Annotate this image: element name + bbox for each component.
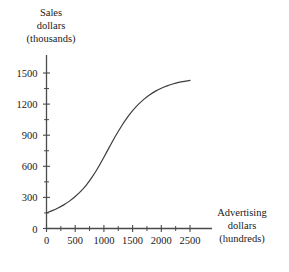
x-axis-tick-label: 1500	[122, 235, 143, 246]
x-axis-tick-label: 0	[44, 235, 49, 246]
y-axis-tick-label: 0	[0, 223, 38, 234]
y-axis-title: Sales dollars (thousands)	[8, 6, 94, 45]
y-axis-tick-label: 1500	[0, 68, 38, 79]
x-axis-title-line-2: dollars	[198, 219, 286, 232]
x-axis-tick-label: 2500	[180, 235, 201, 246]
y-axis-title-line-3: (thousands)	[8, 32, 94, 45]
x-axis-tick-label: 500	[67, 235, 83, 246]
chart-figure: Sales dollars (thousands) Advertising do…	[0, 0, 289, 272]
x-axis-title: Advertising dollars (hundreds)	[198, 206, 286, 245]
x-axis-title-line-3: (hundreds)	[198, 232, 286, 245]
x-axis-title-line-1: Advertising	[198, 206, 286, 219]
y-axis-title-line-1: Sales	[8, 6, 94, 19]
y-axis-tick-label: 600	[0, 161, 38, 172]
y-axis-tick-label: 300	[0, 192, 38, 203]
y-axis-tick-label: 900	[0, 130, 38, 141]
x-axis-tick-label: 1000	[93, 235, 114, 246]
x-axis-tick-label: 2000	[151, 235, 172, 246]
y-axis-tick-label: 1200	[0, 99, 38, 110]
y-axis-title-line-2: dollars	[8, 19, 94, 32]
